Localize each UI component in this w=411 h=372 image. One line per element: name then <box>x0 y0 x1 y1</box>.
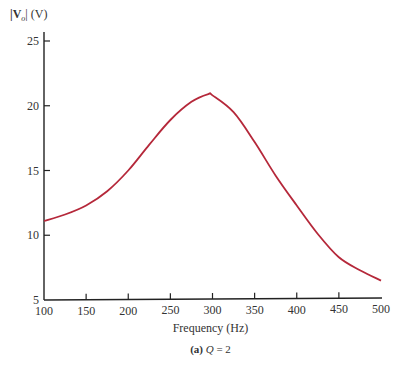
x-tick-label: 450 <box>330 302 348 316</box>
axes <box>44 32 382 300</box>
y-axis-label: |Vo| (V) <box>10 7 47 23</box>
caption-value: = 2 <box>214 343 231 355</box>
caption-prefix: (a) <box>190 343 203 355</box>
y-label-prefix: |V <box>10 7 21 21</box>
y-tick-label: 15 <box>27 164 39 178</box>
x-tick-label: 300 <box>204 303 222 317</box>
y-label-suffix: | (V) <box>25 7 47 21</box>
response-curve <box>44 93 381 280</box>
x-tick-label: 150 <box>77 304 95 318</box>
x-tick-label: 200 <box>119 304 137 318</box>
y-tick-label: 10 <box>27 228 39 242</box>
x-tick-label: 400 <box>288 303 306 317</box>
y-tick-label: 20 <box>27 99 39 113</box>
y-tick-label: 25 <box>27 34 39 48</box>
x-tick-label: 500 <box>372 302 390 316</box>
x-tick-label: 100 <box>35 304 53 318</box>
chart-plot-area: 510152025100150200250300350400450500 <box>0 0 411 372</box>
x-tick-label: 250 <box>161 303 179 317</box>
x-tick-label: 350 <box>246 303 264 317</box>
axis-ticks: 510152025100150200250300350400450500 <box>27 34 390 318</box>
figure-caption: (a) Q = 2 <box>0 343 411 355</box>
x-axis-label: Frequency (Hz) <box>0 321 411 336</box>
caption-variable: Q <box>206 343 214 355</box>
